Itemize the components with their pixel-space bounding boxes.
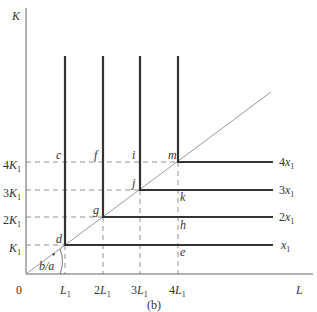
- y-axis-label: K: [11, 9, 21, 23]
- isoquant-4x1: [178, 56, 273, 162]
- svg-text:d: d: [56, 232, 63, 246]
- svg-text:4x1: 4x1: [279, 155, 294, 171]
- svg-text:i: i: [132, 148, 135, 162]
- svg-text:2K1: 2K1: [3, 213, 21, 229]
- svg-text:f: f: [94, 148, 99, 162]
- svg-text:h: h: [180, 218, 186, 232]
- svg-text:4K1: 4K1: [3, 158, 21, 174]
- svg-text:K1: K1: [8, 241, 21, 257]
- svg-text:j: j: [130, 176, 136, 190]
- svg-text:m: m: [168, 148, 177, 162]
- isoquant-3x1: [140, 56, 273, 190]
- svg-text:4L1: 4L1: [169, 283, 186, 299]
- svg-text:3K1: 3K1: [3, 186, 21, 202]
- x-tick-labels: L1 2L1 3L1 4L1: [59, 283, 186, 299]
- svg-text:L1: L1: [59, 283, 71, 299]
- isoquant-labels: x1 2x1 3x1 4x1: [279, 155, 294, 254]
- x-axis-label: L: [295, 283, 303, 297]
- angle-arc: [60, 249, 62, 274]
- svg-text:2x1: 2x1: [279, 210, 294, 226]
- figure-caption: (b): [147, 298, 161, 312]
- svg-text:3x1: 3x1: [279, 183, 294, 199]
- isoquant-diagram: K L 0 4K1 3K1 2K1 K1 L1 2L1 3L1 4L1 x1 2…: [0, 0, 317, 312]
- isoquant-2x1: [103, 56, 273, 217]
- svg-text:k: k: [180, 190, 186, 204]
- angle-label: b/a: [39, 259, 54, 273]
- svg-text:3L1: 3L1: [131, 283, 148, 299]
- svg-text:e: e: [180, 245, 186, 259]
- svg-text:c: c: [56, 148, 62, 162]
- svg-text:x1: x1: [280, 238, 290, 254]
- expansion-ray: [26, 92, 271, 274]
- svg-text:g: g: [93, 203, 99, 217]
- svg-text:2L1: 2L1: [94, 283, 111, 299]
- origin-label: 0: [16, 283, 22, 297]
- y-tick-labels: 4K1 3K1 2K1 K1: [3, 158, 21, 257]
